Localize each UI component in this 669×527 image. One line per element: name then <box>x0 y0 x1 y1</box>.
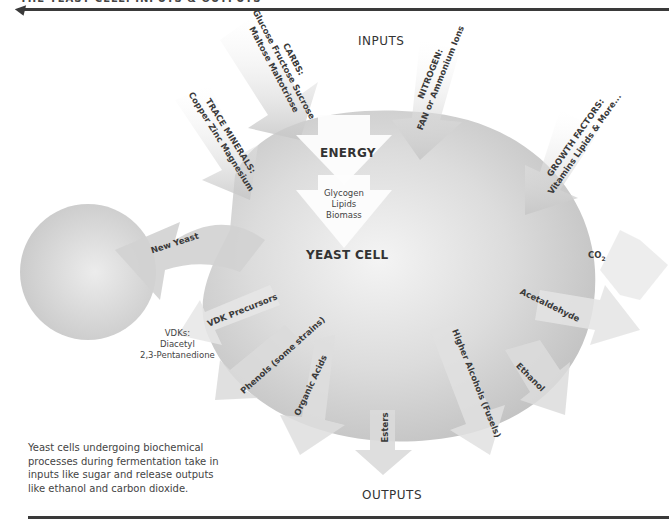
bottom-rule <box>28 516 669 519</box>
storage-label: Glycogen Lipids Biomass <box>324 188 364 221</box>
outputs-heading: OUTPUTS <box>362 488 422 502</box>
yeast-cell-label: YEAST CELL <box>306 250 388 261</box>
figure-caption: Yeast cells undergoing biochemical proce… <box>28 441 228 495</box>
inputs-heading: INPUTS <box>358 34 404 48</box>
energy-label: ENERGY <box>320 148 376 159</box>
esters-label: Esters <box>380 413 391 443</box>
co2-label: CO2 <box>588 250 606 264</box>
vdks-label: VDKs: Diacetyl 2,3-Pentanedione <box>140 328 215 361</box>
